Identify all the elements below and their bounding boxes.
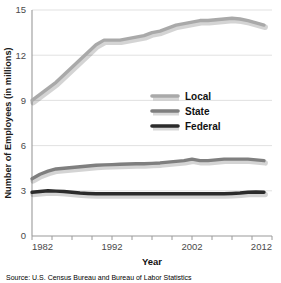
y-tick-label: 9 [21,95,26,106]
x-tick-marks [32,236,272,240]
x-axis-title: Year [142,256,162,267]
x-tick-label: 1982 [32,241,53,252]
y-tick-label: 0 [21,230,26,241]
y-tick-label: 6 [21,140,26,151]
y-axis-title: Number of Employees (in millions) [3,47,13,198]
x-tick-label: 1992 [101,241,122,252]
chart-figure: 03691215 1982199220022012 Number of Empl… [0,0,281,283]
source-note-text: Source: U.S. Census Bureau and Bureau of… [6,275,192,281]
y-tick-label: 12 [15,50,26,61]
legend-label-federal[interactable]: Federal [185,121,221,132]
x-tick-labels: 1982199220022012 [32,241,272,252]
line-chart: 03691215 1982199220022012 Number of Empl… [0,0,281,283]
x-tick-label: 2012 [251,241,272,252]
x-tick-label: 2002 [181,241,202,252]
plot-area-background [32,10,272,236]
y-tick-label: 3 [21,185,26,196]
y-tick-label: 15 [15,4,26,15]
legend-label-state[interactable]: State [185,106,210,117]
y-tick-labels: 03691215 [15,4,26,241]
legend-label-local[interactable]: Local [185,91,211,102]
source-note: Source: U.S. Census Bureau and Bureau of… [0,275,281,283]
